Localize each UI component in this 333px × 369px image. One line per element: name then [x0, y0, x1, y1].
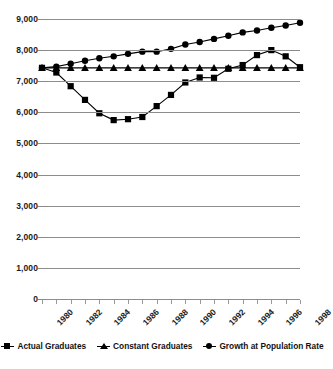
x-axis-tick-mark — [56, 300, 57, 304]
data-point-diamond — [239, 29, 245, 35]
x-axis-tick-mark — [114, 300, 115, 304]
data-point-diamond — [125, 51, 131, 57]
x-axis-tick-label: 1988 — [169, 307, 189, 327]
y-axis-tick-label: 6,000 — [2, 108, 38, 117]
x-axis-tick-mark — [185, 300, 186, 304]
plot-area — [42, 19, 300, 299]
x-axis-tick-mark — [228, 300, 229, 304]
x-axis-tick-mark — [99, 300, 100, 304]
gridline — [42, 143, 300, 144]
x-axis-tick-mark — [300, 300, 301, 304]
gridline — [42, 81, 300, 82]
data-point-square — [68, 83, 74, 89]
legend-glyph — [100, 343, 108, 349]
gridline — [42, 112, 300, 113]
data-point-diamond — [110, 53, 116, 59]
x-axis-tick-label: 1992 — [227, 307, 247, 327]
y-axis: 9,0008,0007,0006,0005,0004,0003,0002,000… — [0, 0, 38, 369]
data-point-square — [154, 103, 160, 109]
data-point-diamond — [282, 22, 288, 28]
data-point-square — [211, 75, 217, 81]
gridline — [42, 50, 300, 51]
data-point-diamond — [182, 41, 188, 47]
legend-item[interactable]: Growth at Population Rate — [203, 341, 323, 351]
series-layer — [34, 11, 308, 307]
x-axis-tick-mark — [71, 300, 72, 304]
gridline — [42, 268, 300, 269]
x-axis-tick-mark — [42, 300, 43, 304]
y-axis-tick-mark — [38, 112, 42, 113]
gridline — [42, 237, 300, 238]
data-point-square — [82, 97, 88, 103]
series-triangle — [38, 64, 304, 71]
data-point-square — [197, 74, 203, 80]
y-axis-tick-label: 7,000 — [2, 77, 38, 86]
x-axis-tick-mark — [286, 300, 287, 304]
y-axis-tick-mark — [38, 175, 42, 176]
x-axis-tick-mark — [243, 300, 244, 304]
data-point-diamond — [82, 57, 88, 63]
x-axis-tick-mark — [214, 300, 215, 304]
square-marker-icon — [1, 342, 14, 351]
x-axis-tick-mark — [271, 300, 272, 304]
gridline — [42, 206, 300, 207]
y-axis-tick-label: 5,000 — [2, 139, 38, 148]
y-axis-tick-label: 9,000 — [2, 15, 38, 24]
data-point-diamond — [225, 33, 231, 39]
data-point-diamond — [53, 63, 59, 69]
legend-label: Constant Graduates — [113, 341, 192, 351]
y-axis-tick-mark — [38, 143, 42, 144]
x-axis-tick-mark — [200, 300, 201, 304]
x-axis-tick-label: 1986 — [141, 307, 161, 327]
x-axis-tick-label: 1984 — [112, 307, 132, 327]
x-axis-tick-mark — [257, 300, 258, 304]
x-axis-tick-mark — [85, 300, 86, 304]
data-point-square — [283, 53, 289, 59]
data-point-square — [139, 114, 145, 120]
x-axis-tick-mark — [128, 300, 129, 304]
x-axis-tick-label: 1982 — [83, 307, 103, 327]
y-axis-tick-label: 0 — [2, 295, 38, 304]
y-axis-tick-mark — [38, 19, 42, 20]
data-point-square — [111, 117, 117, 123]
y-axis-tick-label: 4,000 — [2, 170, 38, 179]
data-point-square — [125, 116, 131, 122]
legend-item[interactable]: Actual Graduates — [1, 341, 86, 351]
legend-label: Actual Graduates — [17, 341, 86, 351]
legend-item[interactable]: Constant Graduates — [97, 341, 192, 351]
y-axis-tick-label: 3,000 — [2, 201, 38, 210]
diamond-marker-icon — [203, 342, 216, 351]
data-point-diamond — [96, 55, 102, 61]
x-axis-tick-mark — [157, 300, 158, 304]
x-axis-tick-label: 1996 — [284, 307, 304, 327]
data-point-square — [254, 52, 260, 58]
data-point-diamond — [168, 46, 174, 52]
data-point-square — [168, 92, 174, 98]
x-axis-tick-label: 1998 — [313, 307, 333, 327]
data-point-diamond — [297, 20, 303, 26]
data-point-diamond — [268, 25, 274, 31]
y-axis-tick-mark — [38, 81, 42, 82]
data-point-diamond — [254, 27, 260, 33]
x-axis-tick-mark — [171, 300, 172, 304]
y-axis-tick-label: 8,000 — [2, 46, 38, 55]
y-axis-tick-mark — [38, 206, 42, 207]
gridline — [42, 19, 300, 20]
y-axis-tick-mark — [38, 50, 42, 51]
data-point-diamond — [196, 39, 202, 45]
y-axis-tick-mark — [38, 268, 42, 269]
triangle-marker-icon — [97, 342, 110, 351]
y-axis-tick-mark — [38, 237, 42, 238]
y-axis-tick-label: 2,000 — [2, 232, 38, 241]
series-diamond — [39, 20, 303, 72]
legend: Actual GraduatesConstant GraduatesGrowth… — [0, 341, 325, 351]
gridline — [42, 175, 300, 176]
data-point-diamond — [39, 65, 45, 71]
data-point-diamond — [67, 61, 73, 67]
x-axis-tick-mark — [142, 300, 143, 304]
legend-glyph — [206, 343, 212, 349]
data-point-diamond — [211, 36, 217, 42]
legend-glyph — [4, 343, 10, 349]
y-axis-tick-label: 1,000 — [2, 263, 38, 272]
